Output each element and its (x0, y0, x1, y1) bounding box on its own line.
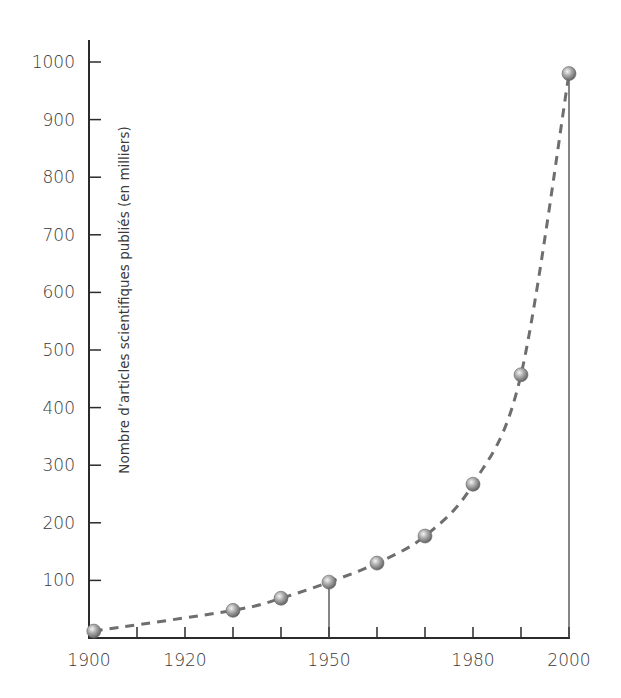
data-point-marker (370, 556, 384, 570)
y-tick-label: 700 (43, 225, 75, 245)
y-tick-label: 800 (43, 167, 75, 187)
y-tick-label: 100 (43, 570, 75, 590)
data-point-marker (274, 591, 288, 605)
x-tick-label: 1900 (67, 650, 110, 670)
chart-canvas: 1002003004005006007008009001000 19001920… (0, 0, 621, 698)
x-tick-label: 1920 (163, 650, 206, 670)
y-tick-label: 900 (43, 110, 75, 130)
x-tick-label: 1950 (307, 650, 350, 670)
data-point-marker (562, 67, 576, 81)
y-axis-title-text: Nombre d’articles scientifiques publiés … (116, 126, 132, 473)
y-axis: 1002003004005006007008009001000 (32, 40, 101, 639)
trend-curve (94, 74, 569, 632)
data-point-marker (87, 624, 101, 638)
y-tick-label: 500 (43, 340, 75, 360)
y-tick-label: 400 (43, 398, 75, 418)
y-tick-label: 600 (43, 282, 75, 302)
y-tick-label: 300 (43, 455, 75, 475)
data-point-marker (322, 575, 336, 589)
y-tick-label: 200 (43, 513, 75, 533)
x-tick-label: 1980 (451, 650, 494, 670)
drop-lines (329, 74, 569, 638)
x-tick-label: 2000 (547, 650, 590, 670)
y-tick-label: 1000 (32, 52, 75, 72)
y-axis-title: Nombre d’articles scientifiques publiés … (116, 126, 132, 473)
data-point-marker (466, 477, 480, 491)
data-point-marker (418, 529, 432, 543)
data-point-marker (514, 368, 528, 382)
data-markers (87, 67, 576, 639)
data-point-marker (226, 603, 240, 617)
